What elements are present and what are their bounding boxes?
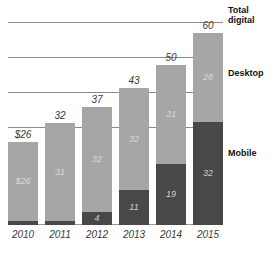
bar-stack-2014[interactable]: 50 31 19 [156,65,186,225]
bar-column-2015[interactable]: 60 28 32 [193,14,223,225]
plot-area: $26 $26 $0.6 32 31 1 [8,14,223,225]
bar-stack-2011[interactable]: 32 31 1 [45,123,75,225]
bar-segment-desktop-2013[interactable]: 32 [119,88,149,190]
bar-column-2014[interactable]: 50 31 19 [156,14,186,225]
x-axis-tick-2011: 2011 [45,230,75,248]
bar-stack-2013[interactable]: 43 32 11 [119,88,149,225]
bar-segment-mobile-value-2014: 19 [166,190,176,199]
bar-segment-desktop-2012[interactable]: 32 [82,107,112,212]
bar-segment-desktop-2014[interactable]: 31 [156,65,186,164]
bar-segment-desktop-2015[interactable]: 28 [193,33,223,122]
bar-total-label-2013: 43 [128,76,139,86]
bar-segment-desktop-value-2014: 31 [166,110,176,119]
bar-segment-mobile-2015[interactable]: 32 [193,122,223,225]
x-axis-tick-2014: 2014 [156,230,186,248]
bar-segment-desktop-2010[interactable]: $26 [8,142,38,221]
bar-stack-2015[interactable]: 60 28 32 [193,33,223,225]
annotation-total-digital-line2: digital [228,15,278,25]
bar-column-2012[interactable]: 37 32 4 [82,14,112,225]
bar-group: $26 $26 $0.6 32 31 1 [8,14,223,225]
x-axis-tick-labels: 2010 2011 2012 2013 2014 2015 [8,230,223,248]
bar-total-label-2010: $26 [15,130,32,140]
bar-segment-desktop-value-2011: 31 [55,168,65,177]
bar-segment-mobile-value-2012: 4 [94,214,99,223]
bar-segment-desktop-value-2012: 32 [92,155,102,164]
annotation-desktop: Desktop [228,68,278,78]
stacked-bar-chart: $26 $26 $0.6 32 31 1 [0,0,278,253]
bar-segment-mobile-2011[interactable]: 1 [45,221,75,225]
bar-segment-desktop-value-2013: 32 [129,135,139,144]
bar-segment-mobile-value-2013: 11 [129,203,138,212]
bar-segment-mobile-2014[interactable]: 19 [156,164,186,225]
x-axis-tick-2010: 2010 [8,230,38,248]
bar-column-2010[interactable]: $26 $26 $0.6 [8,14,38,225]
series-annotations: Total digital Desktop Mobile [228,0,278,253]
bar-segment-mobile-2012[interactable]: 4 [82,212,112,225]
bar-stack-2012[interactable]: 37 32 4 [82,107,112,225]
annotation-mobile: Mobile [228,148,278,158]
x-axis-tick-2012: 2012 [82,230,112,248]
bar-total-label-2014: 50 [165,53,176,63]
bar-total-label-2015: 60 [202,21,213,31]
bar-segment-desktop-value-2010: $26 [15,177,30,186]
x-axis-tick-2013: 2013 [119,230,149,248]
x-axis-tick-2015: 2015 [193,230,223,248]
annotation-total-digital: Total digital [228,5,278,26]
annotation-total-digital-line1: Total [228,5,278,15]
bar-segment-desktop-2011[interactable]: 31 [45,123,75,221]
bar-column-2013[interactable]: 43 32 11 [119,14,149,225]
bar-stack-2010[interactable]: $26 $26 $0.6 [8,142,38,225]
bar-column-2011[interactable]: 32 31 1 [45,14,75,225]
bar-segment-desktop-value-2015: 28 [203,73,213,82]
bar-total-label-2012: 37 [91,95,102,105]
bar-segment-mobile-2013[interactable]: 11 [119,190,149,225]
bar-total-label-2011: 32 [54,111,65,121]
bar-segment-mobile-value-2015: 32 [203,169,213,178]
bar-segment-mobile-2010[interactable]: $0.6 [8,221,38,225]
